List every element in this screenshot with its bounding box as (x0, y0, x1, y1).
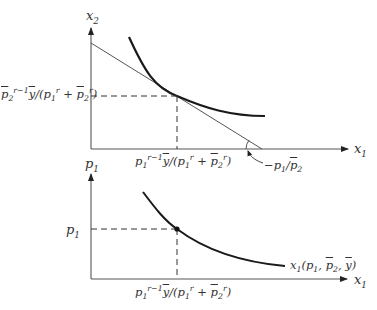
p2-bar: p (211, 285, 218, 299)
minus: − (264, 158, 274, 172)
label-sub: 1 (361, 280, 367, 290)
sup: r−1 (13, 86, 28, 95)
p2-sub: 2 (84, 94, 89, 103)
bottom-y-axis-label: p1 (85, 157, 99, 170)
close: ) (227, 154, 232, 168)
p2-sub: 2 (218, 292, 223, 301)
p2-sub: 2 (297, 165, 302, 174)
label-sub: 1 (74, 230, 80, 240)
plus: + (194, 285, 211, 299)
open: /( (169, 154, 177, 168)
top-y-tick-label: p2r−1y/(p1r + p2r) (1, 89, 97, 101)
bottom-y-tick-label: p1 (66, 223, 80, 236)
p2: p (77, 87, 84, 101)
bottom-x-axis-label: x1 (354, 273, 367, 286)
p1: p (178, 285, 185, 299)
bottom-x-tick-label: p1r−1y/(p1r + p2r) (135, 287, 231, 299)
top-y-axis-label: x2 (86, 9, 99, 22)
sub: 1 (142, 161, 147, 170)
demand-point (174, 226, 179, 231)
p1: p (274, 158, 281, 172)
close: ) (93, 87, 98, 101)
p1-sub: 1 (185, 161, 190, 170)
p2-sub: 2 (218, 161, 223, 170)
top-x-tick-label: p1r−1y/(p1r + p2r) (135, 156, 231, 168)
sup: r−1 (147, 153, 162, 162)
label-sub: 2 (93, 16, 99, 26)
indifference-curve (129, 37, 265, 116)
label-sub: 1 (93, 164, 99, 174)
slope-leader-line (248, 151, 263, 163)
close: ) (227, 285, 232, 299)
p1: p (44, 87, 51, 101)
p1-sub: 1 (51, 94, 56, 103)
p2-bar: p (326, 258, 333, 272)
plus: + (60, 87, 77, 101)
close: ) (352, 258, 357, 272)
p1: p (178, 154, 185, 168)
p1-sub: 1 (185, 292, 190, 301)
p2-bar: p (211, 154, 218, 168)
open: /( (169, 285, 177, 299)
label-sub: 1 (361, 149, 367, 159)
demand-curve-label: x1(p1, p2, y) (290, 260, 356, 272)
slope-annotation: −p1/p2 (264, 160, 302, 172)
top-x-axis-label: x1 (354, 142, 367, 155)
sup: r−1 (147, 284, 162, 293)
plus: + (194, 154, 211, 168)
top-panel (91, 28, 348, 163)
slope-angle-arc (246, 140, 249, 149)
sub: 1 (142, 292, 147, 301)
sub: 2 (8, 94, 13, 103)
comma: , (318, 258, 325, 272)
open: /( (35, 87, 43, 101)
